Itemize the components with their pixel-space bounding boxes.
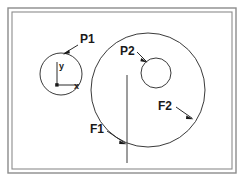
diagram-background — [0, 0, 243, 181]
axis-y-label: y — [59, 61, 64, 71]
label-f2: F2 — [158, 99, 172, 113]
label-f1: F1 — [90, 122, 104, 136]
diagram-canvas: y x P1 P2 F2 F1 — [0, 0, 243, 181]
label-p2: P2 — [120, 44, 135, 58]
axis-origin-marker — [55, 83, 58, 86]
label-p1: P1 — [80, 32, 95, 46]
axis-x-label: x — [74, 81, 79, 91]
technical-diagram: y x P1 P2 F2 F1 — [0, 0, 243, 181]
